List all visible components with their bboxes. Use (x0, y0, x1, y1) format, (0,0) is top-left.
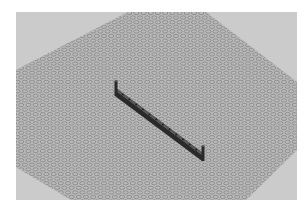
beam-hole (155, 119, 157, 121)
stud (271, 12, 276, 15)
stud (263, 21, 268, 24)
stud (260, 191, 265, 194)
stud (16, 30, 17, 33)
stud (58, 34, 63, 37)
stud (47, 30, 52, 33)
stud (292, 177, 297, 180)
stud (263, 195, 268, 198)
stud (217, 16, 222, 19)
stud (44, 191, 49, 194)
stud (267, 34, 272, 37)
stud (274, 191, 279, 194)
stud (29, 191, 34, 194)
stud (292, 186, 297, 189)
stud (285, 57, 290, 60)
stud (76, 30, 81, 33)
stud (289, 25, 294, 28)
stud (26, 186, 31, 189)
stud (292, 67, 297, 70)
stud (62, 21, 67, 24)
baseplate (16, 12, 297, 200)
stud (51, 34, 56, 37)
stud (289, 182, 294, 185)
stud (47, 39, 52, 42)
stud (47, 195, 52, 198)
stud (285, 177, 290, 180)
stud (29, 16, 34, 19)
stud (40, 195, 45, 198)
stud (26, 21, 31, 24)
stud (281, 172, 286, 175)
stud (278, 168, 283, 171)
stud (285, 21, 290, 24)
stud (289, 62, 294, 65)
stud (16, 53, 20, 56)
stud (289, 172, 294, 175)
stud (296, 62, 297, 65)
stud (33, 39, 38, 42)
stud (40, 186, 45, 189)
stud (253, 16, 258, 19)
stud (26, 39, 31, 42)
stud (22, 62, 27, 65)
stud (263, 48, 268, 51)
beam-hole (129, 99, 131, 101)
stud (220, 21, 225, 24)
stud (253, 44, 258, 47)
stud (29, 34, 34, 37)
stud (19, 21, 24, 24)
stud (296, 172, 297, 175)
stud (292, 21, 297, 24)
stud (80, 25, 85, 28)
stud (37, 44, 42, 47)
stud (292, 195, 297, 198)
stud (274, 53, 279, 56)
stud (285, 39, 290, 42)
stud (249, 21, 254, 24)
stud (16, 34, 20, 37)
stud (263, 39, 268, 42)
stud (22, 53, 27, 56)
stud (16, 44, 20, 47)
stud (22, 182, 27, 185)
stud (285, 48, 290, 51)
stud (274, 172, 279, 175)
stud (242, 21, 247, 24)
stud (260, 34, 265, 37)
stud (87, 25, 92, 28)
stud (278, 186, 283, 189)
stud (256, 30, 261, 33)
stud (278, 12, 283, 15)
stud (62, 12, 67, 15)
stud (47, 48, 52, 51)
stud (256, 12, 261, 15)
stud (249, 195, 254, 198)
stud (22, 172, 27, 175)
stud (69, 30, 74, 33)
stud (289, 53, 294, 56)
stud (231, 25, 236, 28)
stud (29, 44, 34, 47)
stud (278, 177, 283, 180)
stud (296, 16, 297, 19)
stud (278, 39, 283, 42)
stud (249, 12, 254, 15)
stud (271, 186, 276, 189)
stud (213, 12, 218, 15)
stud (285, 30, 290, 33)
stud (296, 154, 297, 157)
stud (26, 57, 31, 60)
stud (40, 12, 45, 15)
stud (73, 25, 78, 28)
stud (278, 57, 283, 60)
stud (47, 21, 52, 24)
stud (44, 44, 49, 47)
stud (19, 30, 24, 33)
stud (94, 16, 99, 19)
stud (16, 186, 17, 189)
stud (69, 12, 74, 15)
stud (76, 12, 81, 15)
stud (29, 182, 34, 185)
stud (278, 21, 283, 24)
stud (249, 30, 254, 33)
